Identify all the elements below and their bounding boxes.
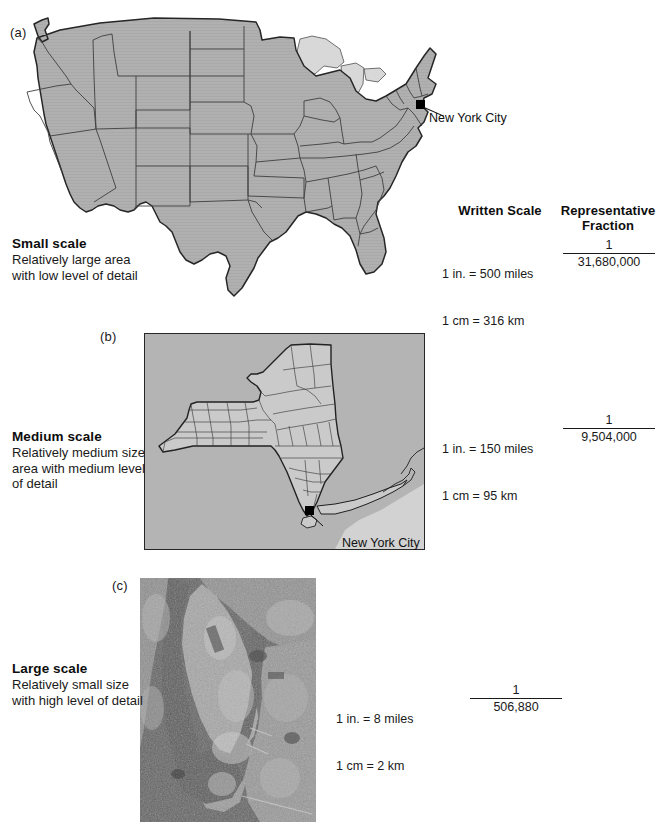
small-scale-desc-line2: with low level of detail [12,268,187,284]
large-scale-desc-line1: Relatively small size [12,677,187,693]
written-scale-a: 1 in. = 500 miles 1 cm = 316 km [442,236,533,345]
rf-a-denominator: 31,680,000 [563,253,655,269]
panel-letter-b: (b) [100,329,117,344]
large-scale-description: Large scale Relatively small size with h… [12,661,187,708]
medium-scale-description: Medium scale Relatively medium size area… [12,429,187,492]
medium-scale-desc-line3: of detail [12,476,187,492]
written-scale-b-line1: 1 in. = 150 miles [442,442,533,458]
written-scale-b-line2: 1 cm = 95 km [442,489,533,505]
nyc-label-panel-a: New York City [429,111,507,125]
rf-b-numerator: 1 [563,413,655,428]
written-scale-a-line1: 1 in. = 500 miles [442,267,533,283]
panel-letter-c: (c) [112,578,128,593]
written-scale-heading: Written Scale [440,203,560,218]
written-scale-a-line2: 1 cm = 316 km [442,314,533,330]
new-york-city-marker-b [305,506,314,515]
written-scale-c-line2: 1 cm = 2 km [336,759,413,775]
medium-scale-desc-line1: Relatively medium size [12,445,187,461]
large-scale-title: Large scale [12,661,187,676]
small-scale-desc-line1: Relatively large area [12,252,187,268]
map-scale-figure: { "figure": { "title": "Map Scale Compar… [0,0,661,829]
written-scale-b: 1 in. = 150 miles 1 cm = 95 km [442,411,533,520]
small-scale-title: Small scale [12,236,187,251]
nyc-label-panel-b: New York City [342,536,420,550]
representative-fraction-b: 1 9,504,000 [563,413,655,444]
written-scale-c: 1 in. = 8 miles 1 cm = 2 km [336,681,413,790]
rf-b-denominator: 9,504,000 [563,428,655,444]
large-scale-desc-line2: with high level of detail [12,693,187,709]
small-scale-description: Small scale Relatively large area with l… [12,236,187,283]
representative-fraction-heading: Representative Fraction [558,203,658,233]
medium-scale-title: Medium scale [12,429,187,444]
medium-scale-desc-line2: area with medium level [12,461,187,477]
rf-c-denominator: 506,880 [470,698,562,714]
rf-a-numerator: 1 [563,238,655,253]
rf-c-numerator: 1 [470,683,562,698]
rf-heading-line2: Fraction [582,218,634,233]
rf-heading-line1: Representative [561,203,656,218]
written-scale-c-line1: 1 in. = 8 miles [336,712,413,728]
representative-fraction-a: 1 31,680,000 [563,238,655,269]
representative-fraction-c: 1 506,880 [470,683,562,714]
